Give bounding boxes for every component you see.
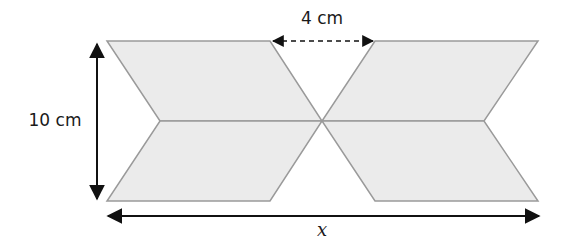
diagram-canvas: 10 cm 4 cm x xyxy=(0,0,565,239)
height-label: 10 cm xyxy=(29,110,82,130)
right-top-parallelogram xyxy=(322,41,538,121)
left-top-parallelogram xyxy=(107,41,322,121)
width-variable-label: x xyxy=(317,219,327,239)
left-bottom-parallelogram xyxy=(107,121,322,201)
right-bottom-parallelogram xyxy=(322,121,538,201)
gap-label: 4 cm xyxy=(301,8,343,28)
